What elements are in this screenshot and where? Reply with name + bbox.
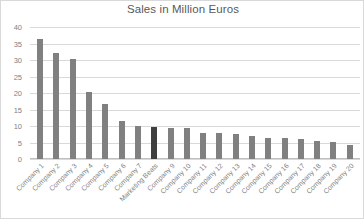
x-axis-labels: Company 1Company 2Company 3Company 4Comp… (30, 160, 360, 219)
bar-slot (146, 27, 162, 159)
y-axis-tick-label: 20 (0, 90, 22, 98)
bar-slot (228, 27, 244, 159)
plot-area: 0510152025303540 (30, 27, 360, 159)
y-axis-tick-label: 15 (0, 106, 22, 114)
bar-slot (130, 27, 146, 159)
bar-slot (162, 27, 178, 159)
bar-slot (97, 27, 113, 159)
y-axis-tick-label: 5 (0, 139, 22, 147)
bar[interactable] (347, 145, 353, 159)
y-axis-tick-label: 40 (0, 24, 22, 32)
bar[interactable] (249, 136, 255, 159)
bar[interactable] (135, 126, 141, 159)
bar-slot (195, 27, 211, 159)
bar-slot (244, 27, 260, 159)
bar-slot (32, 27, 48, 159)
bar-slot (276, 27, 292, 159)
bar-series (30, 27, 360, 159)
bar-slot (260, 27, 276, 159)
bar-slot (325, 27, 341, 159)
bar-slot (211, 27, 227, 159)
bar[interactable] (168, 128, 174, 159)
bar[interactable] (70, 59, 76, 159)
bar[interactable] (298, 139, 304, 159)
bar[interactable] (265, 138, 271, 159)
bar[interactable] (119, 121, 125, 159)
bar[interactable] (330, 142, 336, 159)
bar-slot (48, 27, 64, 159)
bar-slot (113, 27, 129, 159)
bar[interactable] (184, 128, 190, 159)
bar-slot (293, 27, 309, 159)
y-axis-tick-label: 30 (0, 57, 22, 65)
y-axis-tick-label: 10 (0, 123, 22, 131)
bar[interactable] (282, 138, 288, 159)
bar[interactable] (314, 141, 320, 159)
chart-title: Sales in Million Euros (1, 3, 364, 15)
bar[interactable] (37, 39, 43, 159)
bar[interactable] (233, 134, 239, 159)
x-axis-label-slot: Company 20 (342, 160, 358, 219)
bar[interactable] (216, 133, 222, 159)
bar-slot (81, 27, 97, 159)
bar[interactable] (102, 104, 108, 159)
bar-chart: Sales in Million Euros 0510152025303540 … (0, 0, 364, 219)
y-axis-tick-label: 35 (0, 40, 22, 48)
bar[interactable] (200, 133, 206, 159)
bar[interactable] (53, 53, 59, 159)
bar-slot (342, 27, 358, 159)
bar-slot (179, 27, 195, 159)
bar-slot (309, 27, 325, 159)
bar[interactable] (151, 127, 157, 159)
bar-slot (65, 27, 81, 159)
bar[interactable] (86, 92, 92, 159)
y-axis-tick-label: 25 (0, 73, 22, 81)
y-axis-tick-label: 0 (0, 156, 22, 164)
